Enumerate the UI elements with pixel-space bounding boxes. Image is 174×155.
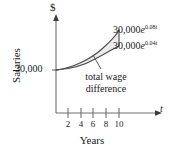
- x-tick-label-6: 6: [86, 119, 100, 129]
- y-intercept-label: 30,000: [15, 64, 43, 74]
- upper-curve-exponent-variable: t: [155, 24, 157, 30]
- x-tick-label-2: 2: [61, 119, 75, 129]
- lower-curve-exponent: 0.04: [145, 40, 156, 46]
- annotation-line-1: total wage: [73, 71, 139, 83]
- upper-curve-equation-label: 30,000e0.08t: [113, 24, 157, 35]
- total-wage-difference-annotation: total wage difference: [73, 71, 139, 95]
- salary-growth-figure: $ t Salaries Years 30,000 2 4 6 8 10 30,…: [0, 0, 174, 155]
- y-axis-currency-symbol: $: [50, 2, 56, 13]
- lower-curve-exponent-variable: t: [155, 40, 157, 46]
- upper-curve-exponent: 0.08: [145, 24, 156, 30]
- y-axis-arrowhead: [53, 14, 59, 21]
- x-tick-label-8: 8: [99, 119, 113, 129]
- upper-curve-coefficient: 30,000: [113, 24, 141, 35]
- x-axis-title: Years: [62, 135, 122, 146]
- x-axis-variable-symbol: t: [160, 104, 163, 114]
- lower-curve-coefficient: 30,000: [113, 40, 141, 51]
- total-wage-difference-region: [56, 30, 119, 70]
- annotation-line-2: difference: [73, 83, 139, 95]
- lower-curve-equation-label: 30,000e0.04t: [113, 40, 157, 51]
- x-tick-label-10: 10: [112, 119, 126, 129]
